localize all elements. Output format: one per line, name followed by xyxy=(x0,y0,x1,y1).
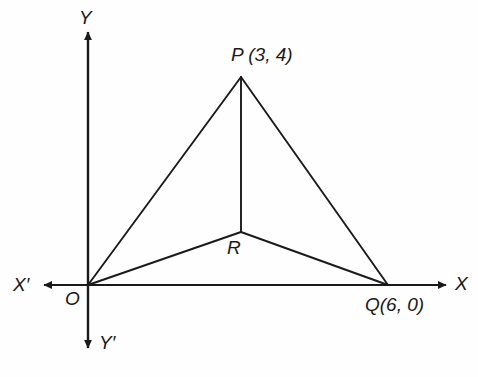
x-negative-axis-label: X′ xyxy=(13,275,29,294)
point-label-q: Q(6, 0) xyxy=(365,295,424,314)
x-axis-label: X xyxy=(455,274,468,293)
figure-canvas: Y Y′ X′ X P (3, 4) R O Q(6, 0) xyxy=(0,0,478,377)
point-label-p: P (3, 4) xyxy=(231,45,293,64)
segment-op xyxy=(88,77,241,285)
point-label-r: R xyxy=(227,238,241,257)
point-label-o: O xyxy=(65,289,80,308)
segment-or xyxy=(88,232,241,285)
segment-pq xyxy=(241,77,388,285)
y-negative-axis-label: Y′ xyxy=(99,333,115,352)
y-axis-label: Y xyxy=(79,8,92,27)
segment-rq xyxy=(241,232,388,285)
